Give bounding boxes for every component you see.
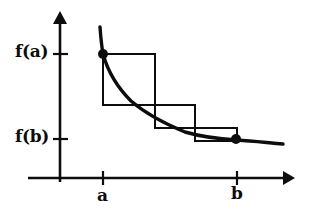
y-axis-label-fa: f(a) xyxy=(15,43,48,60)
arrow-right-icon xyxy=(283,171,295,185)
arrow-up-icon xyxy=(53,11,67,24)
math-figure: f(a) f(b) a b xyxy=(0,0,313,216)
point-b-dot-icon xyxy=(231,134,241,144)
rectangle-2 xyxy=(155,105,195,128)
x-axis-label-a: a xyxy=(97,187,108,204)
function-curve xyxy=(100,27,283,144)
y-axis-label-fb: f(b) xyxy=(15,128,49,145)
figure-canvas xyxy=(0,0,313,216)
x-axis-label-b: b xyxy=(231,185,243,202)
point-a-dot-icon xyxy=(98,49,108,59)
